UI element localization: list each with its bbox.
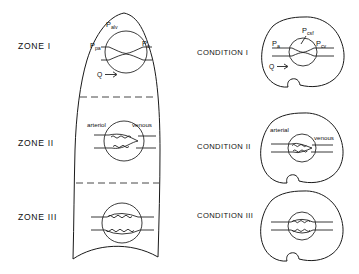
figure-canvas: Palv Ppa Pv Q arteriol venous bbox=[0, 0, 359, 274]
condition-3-label: CONDITION III bbox=[197, 211, 253, 220]
condition-2-label: CONDITION II bbox=[197, 142, 251, 151]
diagram-svg: Palv Ppa Pv Q arteriol venous bbox=[0, 0, 359, 274]
zone-2-label: ZONE II bbox=[18, 138, 54, 148]
label-arterial-condition2: arterial bbox=[270, 126, 289, 133]
label-venous-condition2: venous bbox=[314, 134, 334, 141]
label-q-condition1: Q bbox=[269, 63, 274, 71]
zone-1-label: ZONE I bbox=[18, 41, 51, 51]
label-venous-zone2: venous bbox=[132, 121, 152, 128]
condition-1-label: CONDITION I bbox=[197, 48, 248, 57]
label-q-zone1: Q bbox=[97, 71, 102, 79]
zone-3-label: ZONE III bbox=[18, 212, 57, 222]
label-arteriol-zone2: arteriol bbox=[87, 121, 106, 128]
